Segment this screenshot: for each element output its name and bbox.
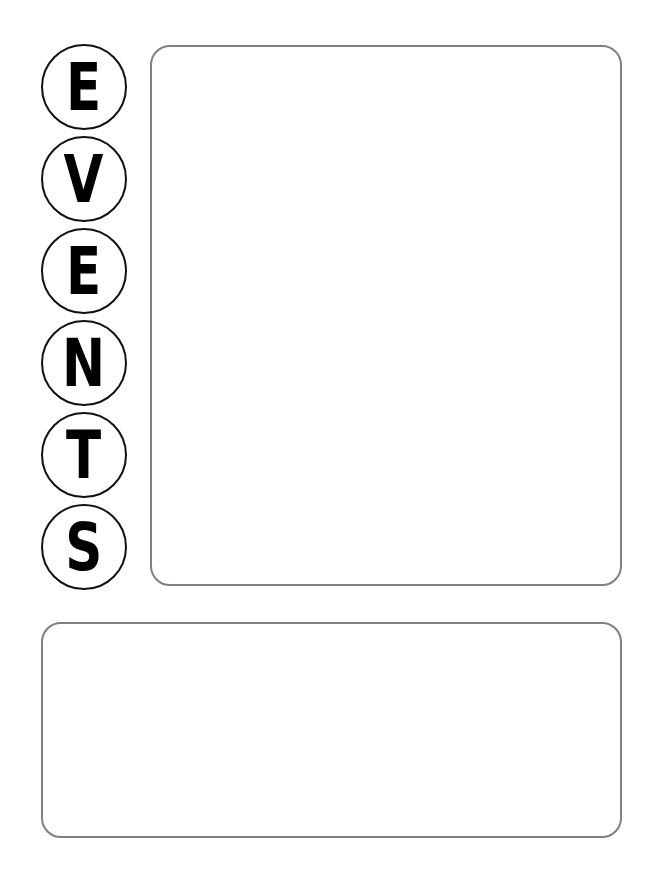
letter-circle-v: V [41,136,127,222]
letter-circle-t: T [41,412,127,498]
letter-circle-e1: E [41,44,127,130]
letter-n: N [62,331,105,397]
letter-v: V [64,147,104,213]
letter-t: T [66,423,101,489]
main-content-box [150,45,622,586]
bottom-content-box [41,622,622,838]
letter-e: E [66,55,101,121]
letter-s: S [65,515,102,581]
letter-circle-e2: E [41,228,127,314]
letter-e: E [66,239,101,305]
letter-circle-s: S [41,504,127,590]
letter-circle-n: N [41,320,127,406]
